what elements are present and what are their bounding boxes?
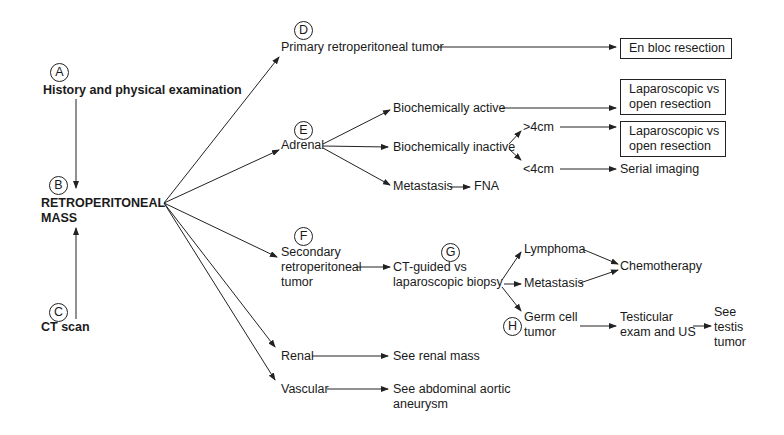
mass-node-line2: MASS [41, 211, 77, 226]
see-aaa-line2: aneurysm [393, 397, 510, 412]
ct-scan-node: CT scan [41, 320, 90, 335]
lymphoma-node: Lymphoma [524, 242, 585, 257]
see-testis-line1: See [714, 305, 746, 320]
en-bloc-resection-box: En bloc resection [620, 38, 732, 59]
lap-open-box-1: Laparoscopic vs open resection [620, 79, 726, 115]
testicular-line1: Testicular [620, 310, 696, 325]
secondary-line3: tumor [281, 275, 362, 290]
germ-line1: Germ cell [524, 310, 577, 325]
see-aaa-line1: See abdominal aortic [393, 382, 510, 397]
gt-4cm-node: >4cm [523, 120, 554, 135]
testicular-exam-node: Testicular exam and US [620, 310, 696, 340]
fna-node: FNA [474, 179, 499, 194]
marker-f: F [294, 227, 313, 246]
marker-h: H [503, 317, 522, 336]
ct-guided-biopsy-node: CT-guided vs laparoscopic biopsy [393, 260, 503, 290]
see-testis-tumor-node: See testis tumor [714, 305, 746, 350]
see-testis-line2: testis [714, 320, 746, 335]
lap-open-box-2-line2: open resection [629, 139, 717, 154]
mass-node-line1: RETROPERITONEAL [41, 196, 165, 211]
ct-guided-line1: CT-guided vs [393, 260, 503, 275]
bio-inactive-node: Biochemically inactive [393, 140, 515, 155]
marker-a: A [50, 63, 69, 82]
connector-arrows [0, 0, 784, 435]
renal-node: Renal [281, 349, 314, 364]
ct-guided-line2: laparoscopic biopsy [393, 275, 503, 290]
lap-open-box-2-line1: Laparoscopic vs [629, 124, 717, 139]
lap-open-box-1-line2: open resection [629, 97, 717, 112]
flowchart-canvas: A B C D E F G H History and physical exa… [0, 0, 784, 435]
secondary-metastasis-node: Metastasis [524, 276, 584, 291]
see-aaa-node: See abdominal aortic aneurysm [393, 382, 510, 412]
see-renal-mass-node: See renal mass [393, 349, 480, 364]
germ-cell-tumor-node: Germ cell tumor [524, 310, 577, 340]
marker-d: D [294, 21, 313, 40]
vascular-node: Vascular [281, 382, 329, 397]
chemotherapy-node: Chemotherapy [620, 259, 702, 274]
secondary-tumor-node: Secondary retroperitoneal tumor [281, 245, 362, 290]
marker-b: B [49, 176, 68, 195]
adrenal-node: Adrenal [281, 138, 324, 153]
bio-active-node: Biochemically active [393, 101, 506, 116]
lt-4cm-node: <4cm [523, 162, 554, 177]
germ-line2: tumor [524, 325, 577, 340]
secondary-line2: retroperitoneal [281, 260, 362, 275]
serial-imaging-node: Serial imaging [620, 162, 699, 177]
adrenal-metastasis-node: Metastasis [393, 179, 453, 194]
testicular-line2: exam and US [620, 325, 696, 340]
lap-open-box-1-line1: Laparoscopic vs [629, 82, 717, 97]
primary-tumor-node: Primary retroperitoneal tumor [281, 40, 444, 55]
secondary-line1: Secondary [281, 245, 362, 260]
history-node: History and physical examination [43, 83, 242, 98]
lap-open-box-2: Laparoscopic vs open resection [620, 121, 726, 157]
see-testis-line3: tumor [714, 335, 746, 350]
